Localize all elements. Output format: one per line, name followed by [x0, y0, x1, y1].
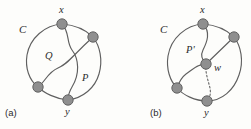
vertex-x[interactable]	[198, 19, 208, 29]
vertex-label-w-b: w	[214, 63, 221, 74]
vertex-y[interactable]	[63, 95, 73, 105]
edge-w-right-b	[206, 37, 234, 64]
path-label-P-a: P	[82, 73, 88, 84]
vertex-label-y-a: y	[65, 107, 70, 118]
panel-b-graph	[167, 19, 241, 106]
vertex-label-x-a: x	[59, 5, 64, 16]
caption-b: (b)	[150, 108, 162, 118]
vertex-right[interactable]	[88, 32, 98, 42]
cycle-arc-b-left	[167, 24, 203, 88]
vertex-y[interactable]	[202, 96, 212, 106]
cycle-label-C-b: C	[160, 24, 167, 35]
panel-a-graph	[26, 19, 100, 105]
path-label-P-prime-b: P'	[186, 45, 195, 56]
vertex-left[interactable]	[172, 83, 182, 93]
vertex-left[interactable]	[33, 82, 43, 92]
cycle-label-C-a: C	[19, 24, 26, 35]
path-P-prime-b	[202, 24, 208, 64]
path-P-a	[62, 24, 78, 100]
vertex-label-y-b: y	[204, 108, 209, 119]
figure-container: x C Q P y (a) x C P' w y (b)	[0, 0, 251, 129]
path-label-Q-a: Q	[45, 51, 53, 62]
vertex-label-x-b: x	[200, 5, 205, 16]
cycle-arc-a-bottomright	[68, 37, 101, 100]
caption-a: (a)	[5, 108, 17, 118]
vertex-right[interactable]	[229, 32, 239, 42]
vertex-w[interactable]	[201, 59, 211, 69]
vertex-x[interactable]	[57, 19, 67, 29]
